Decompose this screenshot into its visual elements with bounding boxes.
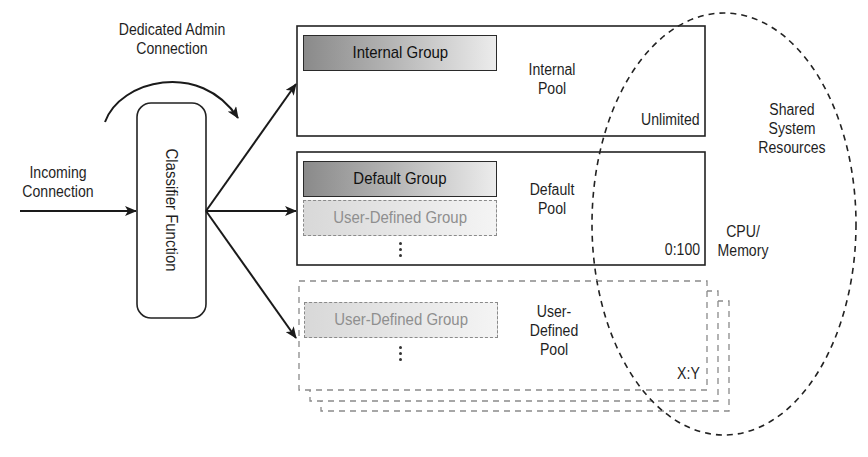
default-group: Default Group: [303, 161, 497, 197]
default-pool-user-group-label: User-Defined Group: [333, 201, 467, 235]
shared-line1: Shared: [748, 100, 836, 119]
default-pool-label: Default Pool: [521, 180, 583, 218]
incoming-line2: Connection: [14, 182, 102, 201]
default-group-label: Default Group: [353, 162, 446, 196]
shared-line3: Resources: [748, 138, 836, 157]
internal-group-label: Internal Group: [352, 36, 448, 70]
arrow-to-user-pool: [206, 211, 296, 338]
default-pool-more-ellipsis: [399, 242, 403, 260]
dedicated-admin-line2: Connection: [102, 39, 243, 58]
default-pool-line2: Pool: [521, 199, 583, 218]
classifier-function-label: Classifier Function: [161, 148, 181, 271]
cpu-line2: Memory: [712, 241, 774, 260]
internal-pool-label: Internal Pool: [517, 60, 587, 98]
arrow-to-internal-pool: [206, 84, 296, 211]
user-pool-limit: X:Y: [677, 364, 700, 383]
incoming-connection-label: Incoming Connection: [14, 163, 102, 201]
user-pool-line2: Defined: [523, 321, 585, 340]
default-pool-user-defined-group: User-Defined Group: [303, 200, 497, 236]
incoming-line1: Incoming: [14, 163, 102, 182]
user-pool-more-ellipsis: [399, 346, 403, 364]
dedicated-admin-line1: Dedicated Admin: [102, 20, 243, 39]
cpu-line1: CPU/: [712, 222, 774, 241]
user-defined-pool-label: User- Defined Pool: [523, 302, 585, 359]
internal-pool-limit: Unlimited: [641, 110, 700, 129]
internal-group: Internal Group: [303, 35, 497, 71]
user-pool-user-defined-group: User-Defined Group: [304, 302, 498, 338]
shared-line2: System: [748, 119, 836, 138]
user-pool-line3: Pool: [523, 340, 585, 359]
default-pool-line1: Default: [521, 180, 583, 199]
dedicated-admin-label: Dedicated Admin Connection: [102, 20, 243, 58]
user-pool-line1: User-: [523, 302, 585, 321]
shared-system-resources-label: Shared System Resources: [748, 100, 836, 157]
cpu-memory-label: CPU/ Memory: [712, 222, 774, 260]
user-pool-group-label: User-Defined Group: [334, 303, 468, 337]
default-pool-limit: 0:100: [665, 240, 700, 259]
internal-pool-line2: Pool: [517, 79, 587, 98]
internal-pool-line1: Internal: [517, 60, 587, 79]
